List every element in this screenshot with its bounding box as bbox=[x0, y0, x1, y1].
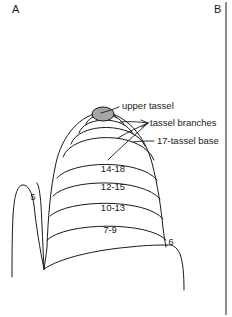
upper-tassel-ellipse bbox=[92, 107, 114, 121]
figure-panel-a: A B upper tassel tassel branches 17-tass… bbox=[0, 0, 232, 317]
annotation-upper-tassel: upper tassel bbox=[122, 100, 174, 111]
part-number-6: 6 bbox=[168, 237, 173, 247]
husk-leaf-left bbox=[12, 185, 44, 277]
panel-letter-a: A bbox=[12, 3, 20, 15]
band-label-10-13: 10-13 bbox=[101, 202, 125, 213]
panel-letter-b: B bbox=[214, 3, 221, 15]
band-label-12-15: 12-15 bbox=[101, 181, 125, 192]
husk-leaf-left-inner bbox=[37, 183, 44, 269]
tassel-arc-5 bbox=[63, 137, 154, 160]
annotation-tassel-branches: tassel branches bbox=[150, 117, 217, 128]
husk-leaf-right bbox=[167, 245, 184, 290]
tassel-arc-4 bbox=[71, 127, 145, 146]
cob-base-curve bbox=[44, 245, 167, 269]
leader-tassel-branches-mid bbox=[118, 123, 148, 138]
part-number-5: 5 bbox=[30, 192, 35, 202]
band-label-14-18: 14-18 bbox=[101, 163, 125, 174]
band-label-7-9: 7-9 bbox=[103, 224, 117, 235]
annotation-17-tassel-base: 17-tassel base bbox=[157, 135, 219, 146]
tassel-diagram-svg: A B upper tassel tassel branches 17-tass… bbox=[0, 0, 232, 317]
cob-outline-left bbox=[44, 112, 103, 269]
leader-tassel-branches-upper bbox=[120, 122, 148, 123]
